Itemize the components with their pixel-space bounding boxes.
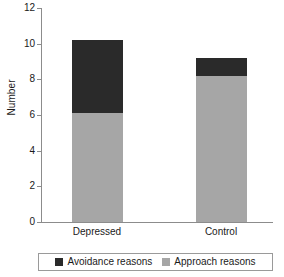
bar-segment-approach-reasons[interactable] [72,113,123,222]
y-tick-mark [37,222,41,223]
legend-item-avoidance-reasons[interactable]: Avoidance reasons [55,257,152,267]
y-tick-mark [37,79,41,80]
y-tick-label: 8 [29,74,35,84]
y-tick-label: 12 [24,3,35,13]
y-tick-label: 10 [24,39,35,49]
bar-segment-avoidance-reasons[interactable] [196,58,247,76]
bar-depressed[interactable] [72,40,123,222]
y-tick-label: 6 [29,110,35,120]
y-tick-mark [37,44,41,45]
y-tick-mark [37,151,41,152]
legend-swatch-icon [55,258,63,266]
plot-area: 024681012 [41,8,273,223]
y-tick-mark [37,115,41,116]
legend-label: Avoidance reasons [67,257,152,267]
x-axis-label-control: Control [181,226,261,237]
legend-item-approach-reasons[interactable]: Approach reasons [162,257,255,267]
bar-segment-approach-reasons[interactable] [196,76,247,222]
legend-swatch-icon [162,258,170,266]
legend-label: Approach reasons [174,257,255,267]
y-tick-label: 4 [29,146,35,156]
y-tick-mark [37,186,41,187]
bar-segment-avoidance-reasons[interactable] [72,40,123,113]
x-axis-line [41,222,273,223]
x-axis-label-depressed: Depressed [57,226,137,237]
chart-legend: Avoidance reasonsApproach reasons [38,253,273,271]
y-tick-label: 0 [29,217,35,227]
bar-control[interactable] [196,58,247,222]
y-axis-title: Number [6,68,17,128]
y-tick-label: 2 [29,181,35,191]
stacked-bar-chart: Number 024681012 DepressedControl Avoida… [0,0,284,277]
y-axis-line [41,8,42,223]
y-tick-mark [37,8,41,9]
